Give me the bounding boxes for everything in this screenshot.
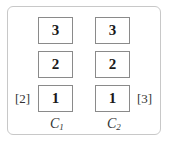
box-label: 1 <box>109 90 117 107</box>
column-1-box-top: 3 <box>38 17 73 44</box>
column-1-name-base: C <box>50 116 59 131</box>
column-1-box-bottom: 1 <box>38 85 73 112</box>
box-label: 1 <box>52 90 60 107</box>
box-label: 2 <box>52 56 60 73</box>
column-2-box-top: 3 <box>95 17 130 44</box>
column-1-name: C1 <box>50 116 64 132</box>
diagram-frame <box>7 6 161 135</box>
box-label: 3 <box>109 22 117 39</box>
column-2-name-sub: 2 <box>116 122 121 132</box>
column-2-box-bottom: 1 <box>95 85 130 112</box>
column-1-box-middle: 2 <box>38 51 73 78</box>
column-2-box-middle: 2 <box>95 51 130 78</box>
column-1-side-label: [2] <box>15 91 30 107</box>
box-label: 2 <box>109 56 117 73</box>
box-label: 3 <box>52 22 60 39</box>
column-2-name: C2 <box>107 116 121 132</box>
column-1-name-sub: 1 <box>59 122 64 132</box>
column-2-name-base: C <box>107 116 116 131</box>
column-2-side-label: [3] <box>137 91 152 107</box>
